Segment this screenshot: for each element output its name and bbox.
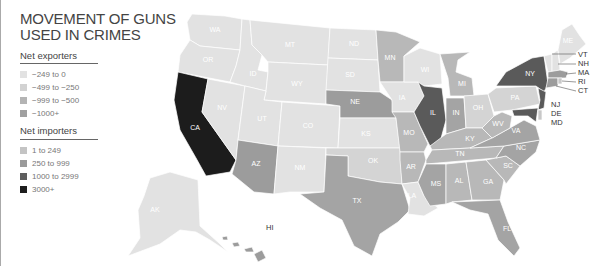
label-ME: ME <box>563 37 574 44</box>
label-TN: TN <box>455 150 464 157</box>
label-MA: MA <box>578 68 589 77</box>
label-DE: DE <box>551 109 561 118</box>
label-NJ: NJ <box>551 100 560 109</box>
state-HI-1[interactable] <box>222 236 228 240</box>
label-NV: NV <box>217 104 227 111</box>
label-NM: NM <box>295 164 306 171</box>
label-MI: MI <box>458 80 466 87</box>
label-CO: CO <box>303 122 314 129</box>
label-AR: AR <box>406 163 416 170</box>
label-IL: IL <box>430 109 436 116</box>
label-SC: SC <box>503 162 513 169</box>
label-TX: TX <box>353 197 362 204</box>
state-HI-3[interactable] <box>244 247 254 252</box>
label-ND: ND <box>349 40 359 47</box>
state-CT[interactable] <box>546 78 558 88</box>
label-MT: MT <box>285 41 296 48</box>
state-MI[interactable] <box>440 52 474 96</box>
label-AZ: AZ <box>252 160 262 167</box>
label-WV: WV <box>492 120 504 127</box>
label-OR: OR <box>203 56 214 63</box>
label-WI: WI <box>421 66 430 73</box>
leader-CT <box>556 86 576 91</box>
label-MS: MS <box>431 180 442 187</box>
label-OH: OH <box>473 104 484 111</box>
label-PA: PA <box>511 94 520 101</box>
label-KS: KS <box>361 130 371 137</box>
label-CA: CA <box>190 124 200 131</box>
label-NC: NC <box>516 144 526 151</box>
state-RI[interactable] <box>558 78 562 84</box>
label-VT: VT <box>578 50 588 59</box>
label-OK: OK <box>368 157 378 164</box>
state-MA[interactable] <box>548 70 568 78</box>
label-NY: NY <box>525 70 535 77</box>
label-MD: MD <box>551 118 563 127</box>
label-WY: WY <box>291 80 303 87</box>
label-ID: ID <box>250 70 257 77</box>
leader-RI <box>562 81 576 82</box>
label-CT: CT <box>578 86 588 95</box>
state-HI[interactable] <box>254 250 266 262</box>
label-HI: HI <box>266 223 274 232</box>
label-AK: AK <box>150 206 160 213</box>
label-KY: KY <box>465 135 475 142</box>
label-NE: NE <box>350 98 360 105</box>
label-VA: VA <box>512 127 521 134</box>
us-map: WA OR CA NV ID MT WY UT CO AZ NM ND SD N… <box>0 0 607 266</box>
label-IN: IN <box>453 109 460 116</box>
state-DE[interactable] <box>538 110 542 120</box>
label-MN: MN <box>385 54 396 61</box>
label-IA: IA <box>399 94 406 101</box>
label-NH: NH <box>578 59 589 68</box>
state-AK[interactable] <box>128 172 228 256</box>
label-MO: MO <box>403 129 415 136</box>
state-HI-2[interactable] <box>232 242 240 247</box>
label-WA: WA <box>209 26 220 33</box>
label-AL: AL <box>455 177 464 184</box>
label-RI: RI <box>578 77 586 86</box>
label-FL: FL <box>503 225 511 232</box>
label-GA: GA <box>483 178 493 185</box>
label-UT: UT <box>257 115 267 122</box>
label-LA: LA <box>408 192 417 199</box>
state-AZ[interactable] <box>232 140 278 194</box>
state-MD[interactable] <box>512 108 538 122</box>
label-SD: SD <box>345 71 355 78</box>
